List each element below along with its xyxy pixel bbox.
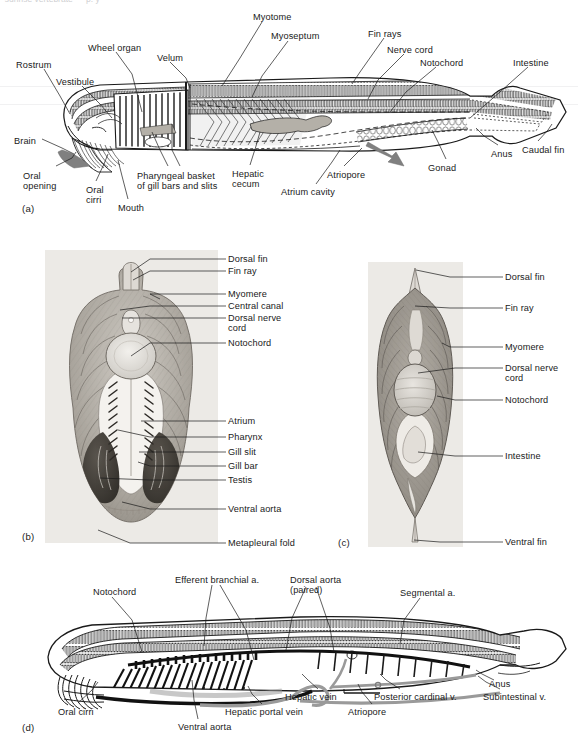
label-c-myomere: Myomere <box>505 342 544 352</box>
label-d-subintestinal-vein: Subintestinal v. <box>483 692 546 702</box>
label-velum: Velum <box>157 53 183 63</box>
label-b-myomere: Myomere <box>228 289 267 299</box>
label-c-notochord: Notochord <box>505 395 548 405</box>
label-mouth: Mouth <box>118 203 144 213</box>
panel-letter-a: (a) <box>22 203 34 214</box>
panel-letter-b: (b) <box>22 531 34 542</box>
label-d-segmental-artery: Segmental a. <box>400 588 455 598</box>
label-d-posterior-cardinal: Posterior cardinal v. <box>374 692 457 702</box>
label-b-testis: Testis <box>228 475 252 485</box>
label-c-dorsal-fin: Dorsal fin <box>505 272 545 282</box>
label-d-atriopore: Atriopore <box>348 707 386 717</box>
label-d-efferent-branchial: Efferent branchial a. <box>175 575 259 585</box>
label-myoseptum: Myoseptum <box>271 31 319 41</box>
label-c-intestine: Intestine <box>505 451 541 461</box>
oral-opening-shape <box>58 150 90 168</box>
label-oral-opening: Oral opening <box>23 171 56 192</box>
label-brain: Brain <box>14 136 36 146</box>
label-b-gill-bar: Gill bar <box>228 461 258 471</box>
label-d-notochord: Notochord <box>93 587 136 597</box>
label-b-atrium: Atrium <box>228 416 255 426</box>
label-b-metapleural-fold: Metapleural fold <box>228 538 295 548</box>
label-b-ventral-aorta: Ventral aorta <box>228 504 281 514</box>
label-b-dorsal-nerve-cord: Dorsal nerve cord <box>228 313 281 334</box>
label-hepatic-cecum: Hepatic cecum <box>232 169 264 190</box>
label-oral-cirri: Oral cirri <box>86 185 104 206</box>
label-d-anus: Anus <box>489 679 510 689</box>
label-atriopore: Atriopore <box>327 170 365 180</box>
label-b-dorsal-fin: Dorsal fin <box>228 254 268 264</box>
label-anus: Anus <box>491 149 512 159</box>
label-pharyngeal-basket: Pharyngeal basket of gill bars and slits <box>137 171 217 192</box>
label-vestibule: Vestibule <box>56 77 94 87</box>
label-b-notochord: Notochord <box>228 338 271 348</box>
panel-letter-c: (c) <box>338 537 350 548</box>
figure-plate: sunrise vertebrate — p. y <box>0 0 578 742</box>
label-d-dorsal-aorta: Dorsal aorta (paired) <box>290 575 341 596</box>
label-nerve-cord: Nerve cord <box>387 45 433 55</box>
label-wheel-organ: Wheel organ <box>88 43 141 53</box>
label-rostrum: Rostrum <box>16 60 51 70</box>
panel-letter-d: (d) <box>22 722 34 733</box>
label-b-pharynx: Pharynx <box>228 432 262 442</box>
label-atrium-cavity: Atrium cavity <box>281 187 335 197</box>
label-d-oral-cirri: Oral cirri <box>58 707 94 717</box>
label-fin-rays: Fin rays <box>368 29 401 39</box>
label-d-hepatic-vein: Hepatic vein <box>285 692 337 702</box>
label-c-ventral-fin: Ventral fin <box>505 537 547 547</box>
label-b-gill-slit: Gill slit <box>228 447 256 457</box>
label-caudal-fin: Caudal fin <box>522 145 564 155</box>
label-notochord: Notochord <box>420 58 463 68</box>
label-b-fin-ray: Fin ray <box>228 266 257 276</box>
label-c-dorsal-nerve-cord: Dorsal nerve cord <box>505 363 558 384</box>
label-d-hepatic-portal-vein: Hepatic portal vein <box>225 707 303 717</box>
label-b-central-canal: Central canal <box>228 301 283 311</box>
label-myotome: Myotome <box>253 12 291 22</box>
panel-b-micrograph <box>45 250 218 543</box>
label-gonad: Gonad <box>428 163 456 173</box>
label-d-ventral-aorta: Ventral aorta <box>178 722 231 732</box>
panel-c-micrograph <box>368 262 463 547</box>
label-c-fin-ray: Fin ray <box>505 303 534 313</box>
label-intestine: Intestine <box>513 58 549 68</box>
